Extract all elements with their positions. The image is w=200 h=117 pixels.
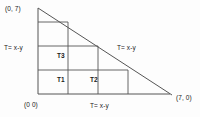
region-label-t2: T2 bbox=[90, 77, 98, 84]
vertex-label-right: (7, 0) bbox=[176, 95, 192, 102]
geometry-figure: (0, 7) (0 0) (7, 0) T= x-y T= x-y T= x-y… bbox=[0, 0, 200, 117]
triangle-diagram bbox=[0, 0, 200, 117]
equation-label-bottom: T= x-y bbox=[90, 103, 109, 110]
vertex-label-top: (0, 7) bbox=[5, 6, 21, 13]
region-label-t3: T3 bbox=[57, 53, 65, 60]
region-label-t1: T1 bbox=[57, 77, 65, 84]
equation-label-right: T= x-y bbox=[117, 45, 136, 52]
vertex-label-origin: (0 0) bbox=[24, 102, 38, 109]
equation-label-left: T= x-y bbox=[4, 45, 23, 52]
